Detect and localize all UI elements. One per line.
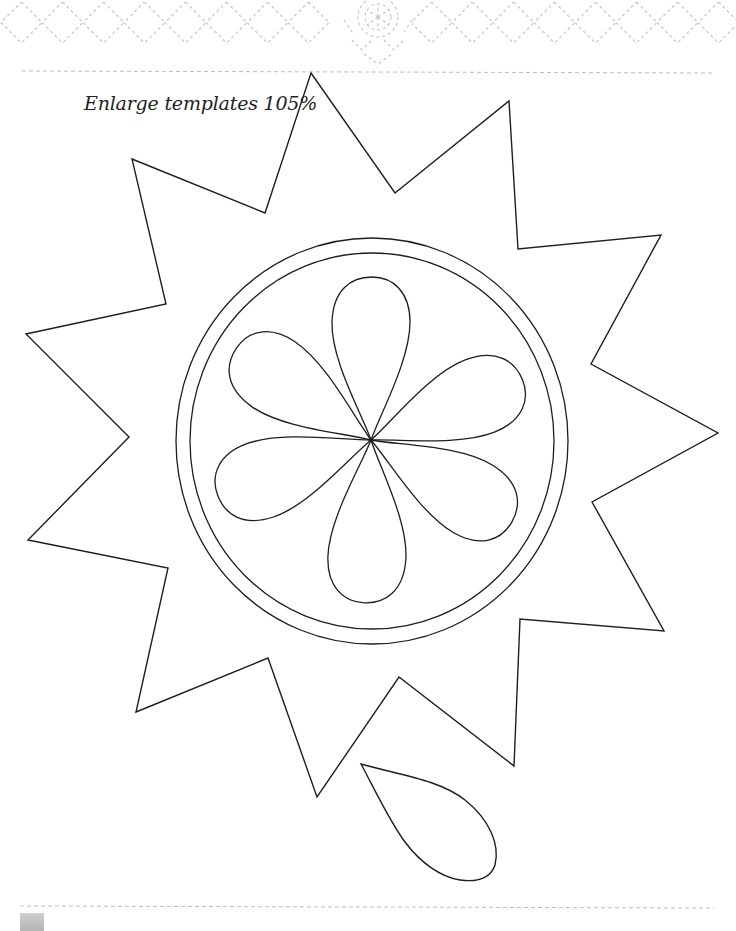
flower-template [204, 277, 536, 604]
petal [352, 406, 532, 555]
star-template [26, 73, 718, 797]
bottom-dashed-rule [20, 906, 714, 908]
header-border [0, 0, 736, 64]
petal [332, 277, 410, 440]
medallion-icon [344, 0, 412, 64]
page-number-tab [20, 913, 44, 931]
loose-petal-template [361, 764, 496, 881]
petal [204, 403, 384, 532]
enlarge-caption: Enlarge templates 105% [84, 92, 317, 114]
petal [214, 317, 393, 473]
top-dashed-rule [22, 71, 714, 73]
template-artwork [0, 0, 736, 931]
petal [326, 439, 410, 605]
